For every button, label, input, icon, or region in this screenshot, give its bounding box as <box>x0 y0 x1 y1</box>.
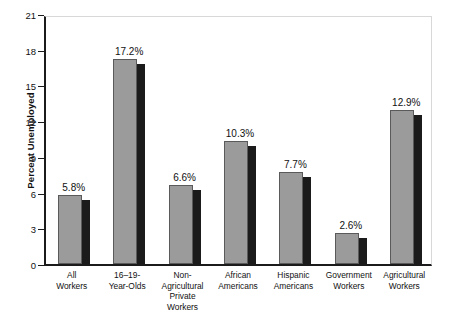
y-axis-tick-label: 6 <box>6 190 36 200</box>
bar-value-label: 17.2% <box>100 46 158 57</box>
bar-side-face <box>248 146 256 264</box>
y-axis-tick-label: 12 <box>6 118 36 128</box>
x-axis-category-label: Agricultural Workers <box>369 270 440 291</box>
bar-side-face <box>414 115 422 264</box>
bar-value-label: 6.6% <box>156 172 214 183</box>
bar-value-label: 5.8% <box>45 182 103 193</box>
bar-front-face <box>279 172 303 264</box>
y-axis-tick-label: 0 <box>6 261 36 271</box>
y-axis-tick-label: 21 <box>6 11 36 21</box>
y-axis-tick-label: 3 <box>6 225 36 235</box>
y-axis-tick-label: 18 <box>6 47 36 57</box>
y-axis-tick-label: 15 <box>6 82 36 92</box>
bar-value-label: 7.7% <box>266 159 324 170</box>
bar-value-label: 12.9% <box>377 97 435 108</box>
bar-front-face <box>224 141 248 264</box>
bar-front-face <box>113 59 137 264</box>
unemployment-bar-chart: Percent Unemployed 036912151821 5.8%17.2… <box>0 0 451 322</box>
bar-side-face <box>359 238 367 264</box>
bar-value-label: 10.3% <box>211 128 269 139</box>
bar-front-face <box>58 195 82 264</box>
bar-side-face <box>137 64 145 264</box>
bar-side-face <box>193 190 201 264</box>
bar-front-face <box>390 110 414 264</box>
chart-title <box>0 0 451 3</box>
bar-value-label: 2.6% <box>322 220 380 231</box>
bar-side-face <box>82 200 90 264</box>
y-axis-tick-label: 9 <box>6 154 36 164</box>
bar-front-face <box>169 185 193 264</box>
plot-area: 5.8%17.2%6.6%10.3%7.7%2.6%12.9% <box>44 16 432 266</box>
bar-side-face <box>303 177 311 264</box>
bar-front-face <box>335 233 359 264</box>
